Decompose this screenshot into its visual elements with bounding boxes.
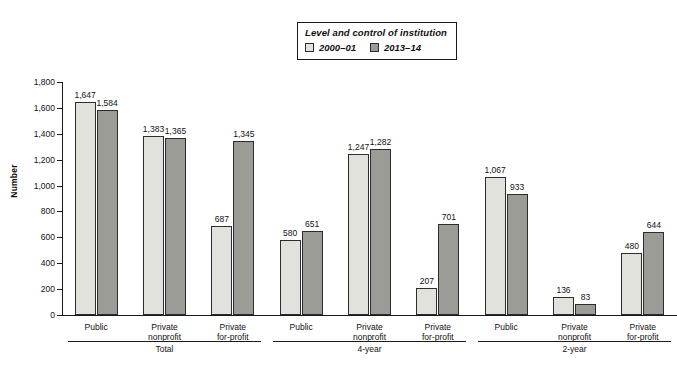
x-axis-category-label: Privatenonprofit	[148, 322, 181, 342]
bar	[370, 149, 391, 315]
x-axis-category-label: Public	[85, 322, 108, 332]
bar	[438, 224, 459, 315]
y-axis-tick	[57, 211, 62, 212]
plot-area: 02004006008001,0001,2001,4001,6001,800 1…	[62, 82, 677, 315]
y-axis-tick	[57, 160, 62, 161]
legend-label-2013-14: 2013–14	[384, 42, 421, 53]
y-axis-tick	[57, 82, 62, 83]
legend-title: Level and control of institution	[305, 27, 449, 38]
bar	[348, 154, 369, 315]
x-axis-category-label-line1: Private	[627, 322, 659, 332]
bar-value-label: 1,584	[97, 99, 118, 108]
bar-value-label: 1,647	[75, 91, 96, 100]
legend-entries: 2000–01 2013–14	[305, 42, 449, 53]
bar-value-label: 136	[556, 286, 570, 295]
y-axis-tick-label: 200	[15, 285, 55, 294]
x-axis-group-label: 2-year	[562, 344, 586, 354]
y-axis-line	[62, 82, 63, 315]
x-axis-category-label: Privatenonprofit	[558, 322, 591, 342]
x-axis-category-label: Privatefor-profit	[422, 322, 454, 342]
bar-value-label: 1,067	[485, 166, 506, 175]
y-axis-tick	[57, 186, 62, 187]
bar	[553, 297, 574, 315]
bar	[97, 110, 118, 315]
x-axis-group-label: 4-year	[357, 344, 381, 354]
y-axis-tick	[57, 237, 62, 238]
x-axis-category-label-line1: Public	[495, 322, 518, 332]
bar	[233, 141, 254, 315]
bar-value-label: 1,383	[143, 125, 164, 134]
y-axis-tick-label: 1,000	[15, 181, 55, 190]
bar	[621, 253, 642, 315]
bar	[302, 231, 323, 315]
legend-label-2000-01: 2000–01	[319, 42, 356, 53]
x-axis-group-rule	[478, 341, 671, 342]
y-axis-tick-label: 1,600	[15, 104, 55, 113]
bar	[485, 177, 506, 315]
y-axis-tick-label: 800	[15, 207, 55, 216]
x-axis-category-label-line1: Private	[422, 322, 454, 332]
bar-value-label: 1,282	[370, 138, 391, 147]
x-axis-category-label: Privatefor-profit	[217, 322, 249, 342]
x-axis-line	[62, 315, 677, 316]
bar	[416, 288, 437, 315]
x-axis-category-label: Public	[290, 322, 313, 332]
x-axis-category-label-line1: Private	[217, 322, 249, 332]
y-axis-tick-label: 600	[15, 233, 55, 242]
bar-value-label: 701	[442, 213, 456, 222]
y-axis-tick	[57, 263, 62, 264]
bar-value-label: 933	[510, 183, 524, 192]
bar-value-label: 687	[215, 215, 229, 224]
bar-chart: Level and control of institution 2000–01…	[0, 0, 677, 366]
bar-value-label: 480	[625, 242, 639, 251]
bar	[575, 304, 596, 315]
y-axis-tick-label: 0	[15, 311, 55, 320]
bar	[643, 232, 664, 315]
y-axis-tick	[57, 108, 62, 109]
y-axis-tick-label: 1,400	[15, 130, 55, 139]
bar	[143, 136, 164, 315]
bar-value-label: 207	[420, 277, 434, 286]
x-axis-category-label-line1: Public	[85, 322, 108, 332]
y-axis-tick-label: 400	[15, 259, 55, 268]
y-axis-tick-label: 1,800	[15, 78, 55, 87]
bar-value-label: 1,247	[348, 143, 369, 152]
bar-value-label: 83	[581, 293, 590, 302]
chart-legend: Level and control of institution 2000–01…	[297, 22, 457, 60]
legend-entry-2013-14: 2013–14	[370, 42, 421, 53]
x-axis-category-label-line1: Private	[148, 322, 181, 332]
y-axis-tick	[57, 315, 62, 316]
bar-value-label: 644	[647, 221, 661, 230]
x-axis-category-label: Privatenonprofit	[353, 322, 386, 342]
bar	[165, 138, 186, 315]
bar-value-label: 1,345	[233, 130, 254, 139]
x-axis-category-label: Privatefor-profit	[627, 322, 659, 342]
x-axis-category-label-line1: Public	[290, 322, 313, 332]
x-axis-group-rule	[68, 341, 261, 342]
x-axis-group-label: Total	[156, 344, 174, 354]
bar-value-label: 1,365	[165, 127, 186, 136]
legend-swatch-dark	[370, 43, 379, 52]
x-axis-category-label-line1: Private	[353, 322, 386, 332]
legend-swatch-light	[305, 43, 314, 52]
y-axis-tick-label: 1,200	[15, 155, 55, 164]
bar	[75, 102, 96, 315]
y-axis-tick	[57, 289, 62, 290]
bar	[507, 194, 528, 315]
legend-entry-2000-01: 2000–01	[305, 42, 356, 53]
bar-value-label: 651	[305, 220, 319, 229]
bar	[211, 226, 232, 315]
y-axis-tick	[57, 134, 62, 135]
x-axis-category-label: Public	[495, 322, 518, 332]
bar-value-label: 580	[283, 229, 297, 238]
x-axis-category-label-line1: Private	[558, 322, 591, 332]
x-axis-group-rule	[273, 341, 466, 342]
bar	[280, 240, 301, 315]
